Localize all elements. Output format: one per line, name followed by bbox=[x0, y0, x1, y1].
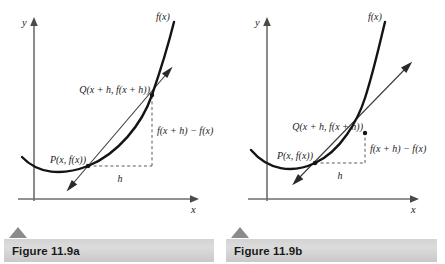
point-p-label-a: P(x, f(x)) bbox=[49, 154, 87, 166]
point-p-label-b: P(x, f(x)) bbox=[276, 150, 314, 162]
caption-marker-triangle-icon bbox=[231, 227, 249, 238]
run-label-a: h bbox=[118, 173, 123, 184]
curve-label-b: f(x) bbox=[368, 11, 383, 23]
x-axis-label-b: x bbox=[410, 204, 416, 215]
figure-panel-a: y x f(x) bbox=[0, 0, 222, 264]
rise-label-b: f(x + h) − f(x) bbox=[370, 143, 427, 155]
diagram-b: y x f(x) bbox=[222, 0, 445, 230]
point-p-marker-a bbox=[86, 164, 90, 168]
rise-label-a: f(x + h) − f(x) bbox=[157, 125, 214, 137]
figure-pair: y x f(x) bbox=[0, 0, 445, 264]
point-q-label-b: Q(x + h, f(x + h)) bbox=[292, 121, 363, 133]
y-axis-label-a: y bbox=[21, 17, 27, 28]
caption-label-a: Figure 11.9a bbox=[4, 245, 80, 257]
function-curve-b bbox=[251, 22, 385, 169]
caption-bar-a: Figure 11.9a bbox=[4, 239, 214, 262]
point-p-marker-b bbox=[313, 161, 317, 165]
figure-panel-b: y x f(x) bbox=[222, 0, 445, 264]
y-axis-b bbox=[263, 17, 271, 201]
x-axis-b bbox=[248, 195, 419, 203]
point-q-marker-a bbox=[150, 93, 154, 97]
caption-bar-b: Figure 11.9b bbox=[226, 239, 437, 262]
curve-label-a: f(x) bbox=[156, 11, 171, 23]
point-q-label-a: Q(x + h, f(x + h)) bbox=[79, 84, 150, 96]
point-q-marker-b bbox=[363, 131, 367, 135]
run-label-b: h bbox=[338, 170, 343, 181]
caption-label-b: Figure 11.9b bbox=[226, 245, 302, 257]
x-axis-a bbox=[18, 195, 199, 203]
y-axis-a bbox=[30, 17, 38, 201]
y-axis-label-b: y bbox=[254, 17, 260, 28]
diagram-a: y x f(x) bbox=[0, 0, 222, 230]
caption-marker-triangle-icon bbox=[9, 227, 27, 238]
x-axis-label-a: x bbox=[190, 204, 196, 215]
